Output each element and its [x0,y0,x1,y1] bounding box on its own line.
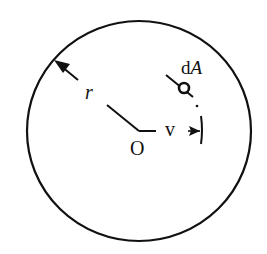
area-element-label: dA [181,57,203,78]
center-label: O [130,137,144,159]
area-element-icon [179,83,189,93]
arc-tick [201,116,202,144]
radius-line [54,60,139,131]
radius-label: r [85,81,93,103]
distance-label: v [165,118,175,140]
dot [196,105,199,108]
circle-diagram: r O v dA [0,0,267,254]
